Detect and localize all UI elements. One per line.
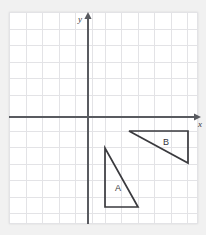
- geometry-figure-screenshot: x y A B: [0, 0, 206, 235]
- triangle-a-label: A: [115, 183, 121, 193]
- triangle-b-outline: [129, 131, 188, 163]
- triangle-b-label: B: [163, 137, 169, 147]
- shapes-layer: A B: [0, 0, 206, 235]
- triangle-a-outline: [105, 148, 138, 207]
